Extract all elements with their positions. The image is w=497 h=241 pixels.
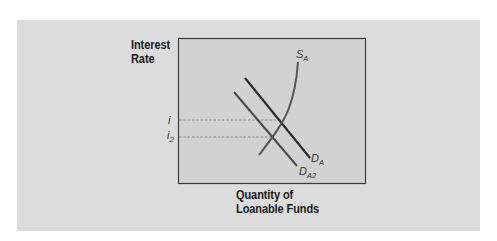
rate-i2-label: i2: [167, 129, 174, 144]
rate-i-label: i: [168, 114, 171, 126]
x-axis-label-line1: Quantity of: [236, 188, 319, 202]
x-axis-label-line2: Loanable Funds: [236, 202, 319, 216]
x-axis-label: Quantity of Loanable Funds: [236, 188, 319, 216]
